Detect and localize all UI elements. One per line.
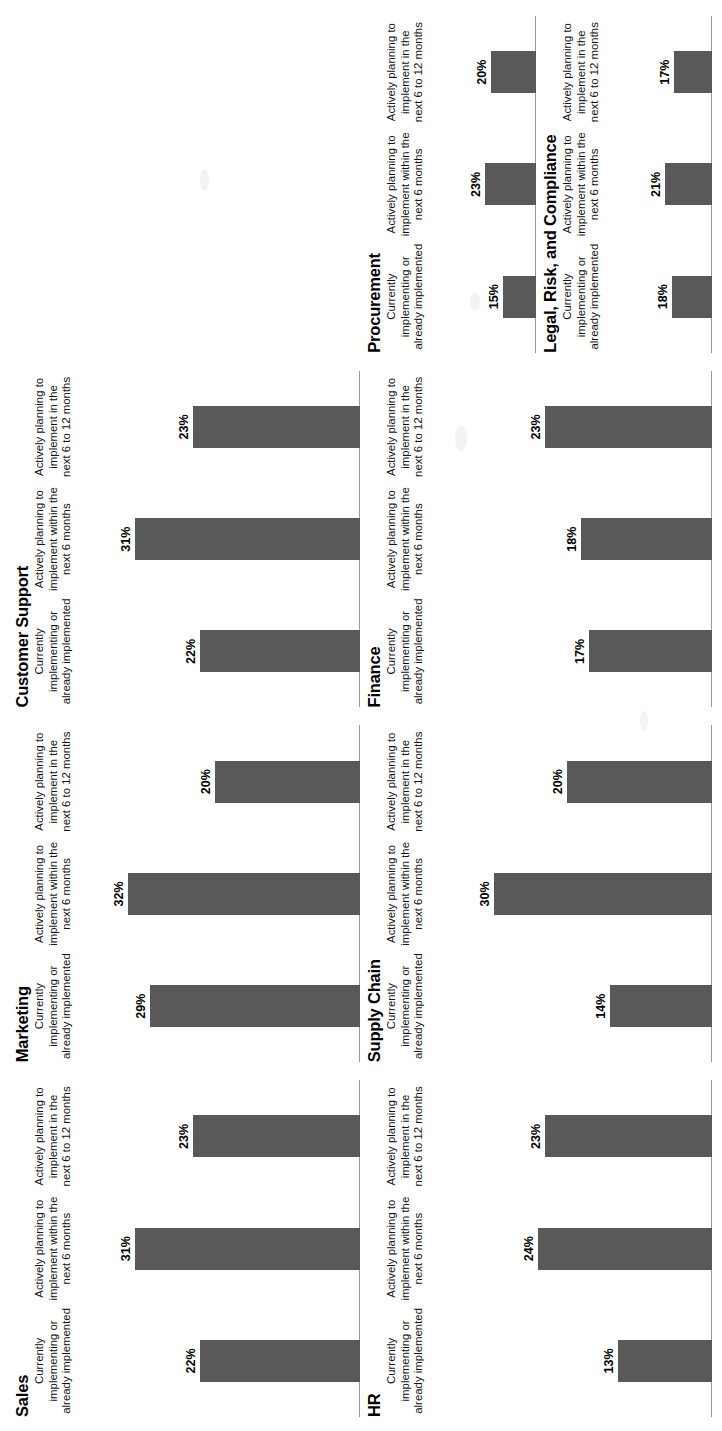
plot-area: 17% 18% 23% [427,371,712,708]
bar-value-label: 15% [488,284,501,309]
plot-area: 13% 24% 23% [427,1080,712,1417]
bar-slot: 18% [441,483,712,595]
plot-area: 18% 21% 17% [603,16,712,353]
category-label: Actively planning to implement in the ne… [385,726,425,838]
panel-title: Legal, Risk, and Compliance [542,16,559,353]
category-label: Currently implementing or already implem… [33,950,73,1062]
category-label: Actively planning to implement in the ne… [33,1080,73,1192]
panel-title: Marketing [14,726,31,1063]
bar-slot: 22% [89,1305,360,1417]
category-label: Actively planning to implement within th… [33,1193,73,1305]
panel-title: Sales [14,1080,31,1417]
bar-slot: 13% [441,1305,712,1417]
bar-value-label: 32% [113,881,126,906]
bar-value-label: 23% [470,172,483,197]
bar-slot: 32% [89,838,360,950]
bar [674,51,712,93]
bar [545,1115,712,1157]
category-label: Currently implementing or already implem… [385,1305,425,1417]
bar-slot: 15% [441,241,536,353]
scanned-report-page: Sales Currently implementing or already … [0,0,722,1431]
category-label: Actively planning to implement in the ne… [385,371,425,483]
bar-slot: 17% [441,595,712,707]
chart-panel-legal-risk-compliance: Legal, Risk, and Compliance Currently im… [538,6,714,361]
panel-title: Customer Support [14,371,31,708]
category-label: Currently implementing or already implem… [561,241,601,353]
bar-value-label: 23% [178,414,191,439]
bar-value-label: 22% [185,1348,198,1373]
panel-title: Finance [366,371,383,708]
bar-value-label: 23% [530,414,543,439]
category-label: Actively planning to implement within th… [33,483,73,595]
bar-value-label: 21% [650,172,663,197]
panel-title: HR [366,1080,383,1417]
category-label: Actively planning to implement within th… [385,483,425,595]
category-label-row: Currently implementing or already implem… [385,371,425,708]
bar-value-label: 29% [135,994,148,1019]
panel-title: Supply Chain [366,726,383,1063]
category-label: Currently implementing or already implem… [385,241,425,353]
bar-value-label: 31% [120,1236,133,1261]
bar-slot: 23% [89,1080,360,1192]
category-label-row: Currently implementing or already implem… [385,16,425,353]
bar-slot: 23% [441,1080,712,1192]
category-label: Actively planning to implement in the ne… [561,16,601,128]
bar-value-label: 20% [476,60,489,85]
bar-value-label: 14% [595,994,608,1019]
plot-area: 15% 23% 20% [427,16,536,353]
bar-slot: 20% [441,16,536,128]
category-label: Actively planning to implement within th… [561,128,601,240]
category-label: Actively planning to implement within th… [385,128,425,240]
category-label: Actively planning to implement in the ne… [385,16,425,128]
bar [503,276,536,318]
category-label: Currently implementing or already implem… [385,595,425,707]
bar-value-label: 18% [657,284,670,309]
bar-slot: 23% [89,371,360,483]
bar-slot: 24% [441,1193,712,1305]
bar [589,630,712,672]
chart-panel-finance: Finance Currently implementing or alread… [362,361,714,716]
chart-panel-supply-chain: Supply Chain Currently implementing or a… [362,716,714,1071]
chart-panel-marketing: Marketing Currently implementing or alre… [10,716,362,1071]
bar [610,985,712,1027]
bar-value-label: 30% [479,881,492,906]
bar-slot: 31% [89,483,360,595]
bar-value-label: 20% [200,769,213,794]
bar [545,406,712,448]
bar-slot: 31% [89,1193,360,1305]
bar-slot: 21% [617,128,712,240]
bar-slot: 18% [617,241,712,353]
bar-value-label: 23% [530,1124,543,1149]
plot-area: 22% 31% 23% [75,1080,360,1417]
bar-value-label: 22% [185,639,198,664]
category-label: Currently implementing or already implem… [385,950,425,1062]
bar-value-label: 20% [552,769,565,794]
rotated-page-wrapper: Sales Currently implementing or already … [0,0,722,1431]
bar-slot: 29% [89,950,360,1062]
category-label-row: Currently implementing or already implem… [33,1080,73,1417]
bar-slot: 17% [617,16,712,128]
bar-slot: 30% [441,838,712,950]
chart-panel-sales: Sales Currently implementing or already … [10,1070,362,1425]
bar [618,1340,712,1382]
category-label-row: Currently implementing or already implem… [385,1080,425,1417]
chart-panel-group-legal-procurement: Procurement Currently implementing or al… [362,6,714,361]
bar-value-label: 24% [523,1236,536,1261]
category-label: Actively planning to implement in the ne… [33,726,73,838]
bar-slot: 23% [441,371,712,483]
bar-slot: 23% [441,128,536,240]
bar-slot: 20% [89,726,360,838]
bar [193,406,360,448]
plot-area: 14% 30% 20% [427,726,712,1063]
bar [135,518,360,560]
category-label: Currently implementing or already implem… [33,1305,73,1417]
bar [494,873,712,915]
panel-title: Procurement [366,16,383,353]
bar-value-label: 31% [120,527,133,552]
bar-slot: 14% [441,950,712,1062]
bar [672,276,712,318]
bar [128,873,360,915]
bar [491,51,536,93]
category-label: Actively planning to implement in the ne… [385,1080,425,1192]
bar [150,985,360,1027]
